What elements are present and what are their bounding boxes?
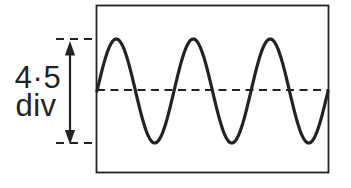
peak-to-peak-arrow-icon bbox=[65, 41, 75, 145]
arrow-head-up-icon bbox=[65, 41, 75, 56]
amplitude-unit-label: div bbox=[15, 88, 56, 123]
figure-canvas: 4·5 div bbox=[0, 0, 351, 188]
oscilloscope-trace-figure: 4·5 div bbox=[0, 0, 351, 188]
